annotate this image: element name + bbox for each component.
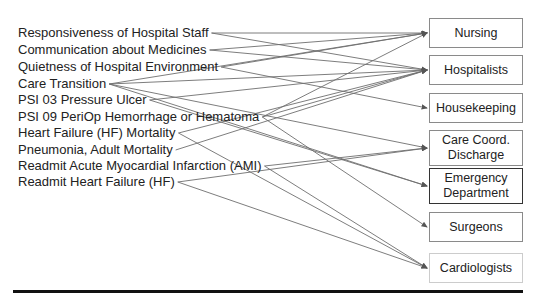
metric-label: PSI 03 Pressure Ulcer <box>18 92 147 108</box>
connector-arrow <box>262 70 427 117</box>
department-box: Surgeons <box>429 212 523 242</box>
metric-label: Pneumonia, Adult Mortality <box>18 142 173 158</box>
metric-label: Care Transition <box>18 76 106 92</box>
connector-arrow <box>210 50 427 70</box>
metric-label: Readmit Acute Myocardial Infarction (AMI… <box>18 158 261 174</box>
metric-label: Communication about Medicines <box>18 42 207 58</box>
metric-label: PSI 09 PeriOp Hemorrhage or Hematoma <box>18 109 259 125</box>
department-box: Hospitalists <box>429 55 523 85</box>
connector-arrow <box>262 117 427 227</box>
department-box: EmergencyDepartment <box>429 168 523 204</box>
metric-label: Readmit Heart Failure (HF) <box>18 174 175 190</box>
department-label: EmergencyDepartment <box>443 171 508 201</box>
department-box: Housekeeping <box>429 93 523 123</box>
department-box: Care Coord.Discharge <box>429 130 523 166</box>
department-label: Hospitalists <box>444 63 508 78</box>
bottom-rule <box>13 290 523 293</box>
connector-arrow <box>178 182 427 268</box>
department-label: Care Coord.Discharge <box>442 133 510 163</box>
metric-label: Heart Failure (HF) Mortality <box>18 125 175 141</box>
metric-label: Responsiveness of Hospital Staff <box>18 25 209 41</box>
department-label: Housekeeping <box>436 101 516 116</box>
connector-arrow <box>264 148 427 166</box>
connector-arrow <box>210 33 427 50</box>
department-label: Cardiologists <box>440 261 512 276</box>
metric-label: Quietness of Hospital Environment <box>18 59 218 75</box>
connector-arrow <box>264 166 427 268</box>
department-label: Surgeons <box>449 220 503 235</box>
department-label: Nursing <box>454 26 497 41</box>
department-box: Cardiologists <box>429 253 523 283</box>
department-box: Nursing <box>429 18 523 48</box>
